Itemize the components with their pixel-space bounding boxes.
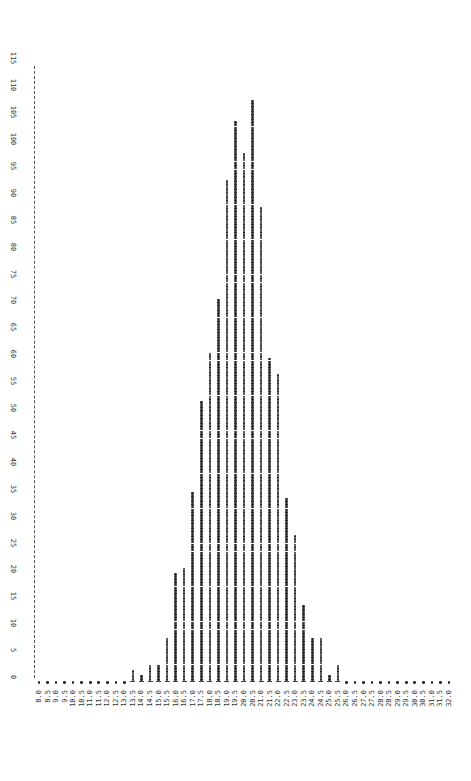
x-tick-label: 21.5 xyxy=(266,690,274,707)
y-tick-label: 90 xyxy=(9,186,17,200)
x-tick-label: 14.5 xyxy=(146,690,154,707)
x-tick-label: 11.0 xyxy=(86,690,94,707)
x-tick-label: 15.0 xyxy=(155,690,163,707)
x-tick-label: 24.5 xyxy=(317,690,325,707)
x-tick-label: 15.5 xyxy=(163,690,171,707)
y-tick-label: 25 xyxy=(9,536,17,550)
x-tick-label: 32.0 xyxy=(445,690,453,707)
x-tick-label: 26.5 xyxy=(351,690,359,707)
y-tick-label: 70 xyxy=(9,293,17,307)
x-tick-label: 25.0 xyxy=(325,690,333,707)
x-tick-label: 31.5 xyxy=(436,690,444,707)
histogram-chart: 0510152025303540455055606570758085909510… xyxy=(0,0,471,781)
x-tick-label: 17.0 xyxy=(189,690,197,707)
y-tick-label: 45 xyxy=(9,428,17,442)
x-tick-label: 10.5 xyxy=(78,690,86,707)
x-tick-label: 13.0 xyxy=(120,690,128,707)
y-tick-label: 50 xyxy=(9,401,17,415)
x-tick-label: 12.0 xyxy=(103,690,111,707)
x-tick-label: 24.0 xyxy=(308,690,316,707)
x-tick-label: 23.0 xyxy=(291,690,299,707)
y-tick-label: 115 xyxy=(9,51,17,65)
y-tick-label: 105 xyxy=(9,105,17,119)
x-tick-label: 21.0 xyxy=(257,690,265,707)
x-tick-label: 22.0 xyxy=(274,690,282,707)
y-tick-label: 35 xyxy=(9,482,17,496)
x-tick-label: 18.0 xyxy=(206,690,214,707)
y-tick-label: 95 xyxy=(9,159,17,173)
y-tick-label: 60 xyxy=(9,347,17,361)
x-tick-label: 12.5 xyxy=(112,690,120,707)
x-tick-label: 27.0 xyxy=(360,690,368,707)
y-tick-label: 80 xyxy=(9,240,17,254)
x-tick-label: 27.5 xyxy=(368,690,376,707)
y-tick-label: 0 xyxy=(9,670,17,684)
x-tick-label: 8.5 xyxy=(44,690,52,703)
x-tick-label: 10.0 xyxy=(69,690,77,707)
x-tick-label: 23.5 xyxy=(300,690,308,707)
x-tick-label: 20.5 xyxy=(249,690,257,707)
y-tick-label: 75 xyxy=(9,267,17,281)
x-tick-label: 28.5 xyxy=(385,690,393,707)
y-tick-label: 5 xyxy=(9,643,17,657)
x-tick-label: 30.0 xyxy=(411,690,419,707)
y-tick-label: 15 xyxy=(9,589,17,603)
x-tick-label: 22.5 xyxy=(283,690,291,707)
x-tick-label: 31.0 xyxy=(428,690,436,707)
y-tick-label: 40 xyxy=(9,455,17,469)
x-tick-label: 28.0 xyxy=(377,690,385,707)
x-tick-label: 16.5 xyxy=(180,690,188,707)
x-tick-label: 18.5 xyxy=(214,690,222,707)
x-tick-label: 14.0 xyxy=(137,690,145,707)
y-axis-line xyxy=(34,66,35,678)
x-tick-label: 9.0 xyxy=(52,690,60,703)
x-tick-label: 20.0 xyxy=(240,690,248,707)
y-tick-label: 65 xyxy=(9,320,17,334)
y-tick-label: 30 xyxy=(9,509,17,523)
x-tick-label: 19.5 xyxy=(231,690,239,707)
x-tick-label: 26.0 xyxy=(342,690,350,707)
x-tick-label: 29.5 xyxy=(402,690,410,707)
y-tick-label: 85 xyxy=(9,213,17,227)
x-tick-label: 29.0 xyxy=(394,690,402,707)
y-tick-label: 55 xyxy=(9,374,17,388)
y-tick-label: 10 xyxy=(9,616,17,630)
y-tick-label: 100 xyxy=(9,132,17,146)
x-tick-label: 9.5 xyxy=(61,690,69,703)
x-tick-label: 16.0 xyxy=(172,690,180,707)
y-tick-label: 20 xyxy=(9,562,17,576)
x-tick-label: 30.5 xyxy=(419,690,427,707)
x-tick-label: 25.5 xyxy=(334,690,342,707)
x-tick-label: 17.5 xyxy=(197,690,205,707)
x-tick-label: 13.5 xyxy=(129,690,137,707)
x-tick-label: 19.0 xyxy=(223,690,231,707)
y-tick-label: 110 xyxy=(9,78,17,92)
x-tick-label: 8.0 xyxy=(35,690,43,703)
x-tick-label: 11.5 xyxy=(95,690,103,707)
